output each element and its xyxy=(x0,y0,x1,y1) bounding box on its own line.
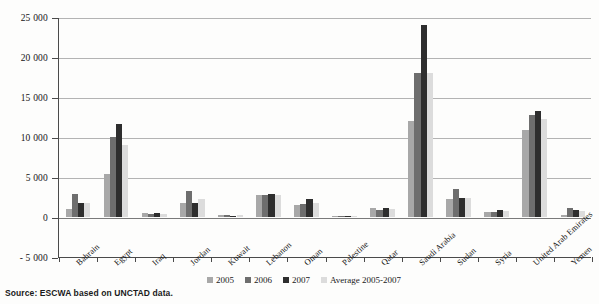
bar-group xyxy=(484,18,509,257)
bar xyxy=(313,203,319,217)
bar xyxy=(465,198,471,217)
x-axis-tick-mark xyxy=(173,257,174,262)
x-axis-tick-mark xyxy=(326,257,327,262)
x-axis-tick-mark xyxy=(592,257,593,262)
source-note: Source: ESCWA based on UNCTAD data. xyxy=(5,288,173,298)
legend-label: 2007 xyxy=(292,275,310,285)
x-axis-tick-mark xyxy=(135,257,136,262)
x-axis-tick-mark xyxy=(554,257,555,262)
x-axis-tick-mark xyxy=(97,257,98,262)
bar xyxy=(541,119,547,217)
chart-legend: 200520062007Average 2005-2007 xyxy=(207,275,401,285)
x-axis-tick-mark xyxy=(440,257,441,262)
bar-group xyxy=(66,18,91,257)
x-axis-tick-mark xyxy=(402,257,403,262)
plot-area xyxy=(58,18,591,258)
legend-item: 2005 xyxy=(207,275,234,285)
bar-group xyxy=(408,18,433,257)
x-axis-tick-mark xyxy=(211,257,212,262)
bar xyxy=(122,145,128,217)
bar-group xyxy=(218,18,243,257)
x-axis-tick-mark xyxy=(478,257,479,262)
bar-group xyxy=(522,18,547,257)
x-axis-tick-mark xyxy=(364,257,365,262)
bar-group xyxy=(561,18,586,257)
bar-group xyxy=(180,18,205,257)
y-axis: 25 00020 00015 00010 0005 0000- 5 000 xyxy=(0,0,58,304)
bar-group xyxy=(294,18,319,257)
bar xyxy=(84,203,90,217)
legend-label: 2005 xyxy=(216,275,234,285)
bar-group xyxy=(446,18,471,257)
legend-label: 2006 xyxy=(254,275,272,285)
legend-item: 2007 xyxy=(283,275,310,285)
bar-group xyxy=(142,18,167,257)
bar-group xyxy=(332,18,357,257)
legend-label: Average 2005-2007 xyxy=(330,275,401,285)
legend-swatch xyxy=(283,277,289,283)
bar-group xyxy=(104,18,129,257)
x-axis-tick-mark xyxy=(516,257,517,262)
bars-layer xyxy=(59,18,591,257)
y-axis-tick-label: 0 xyxy=(43,213,48,223)
bar xyxy=(275,195,281,217)
legend-swatch xyxy=(321,277,327,283)
bar-group xyxy=(370,18,395,257)
legend-item: Average 2005-2007 xyxy=(321,275,401,285)
y-axis-tick-mark xyxy=(52,258,58,259)
y-axis-tick-label: 10 000 xyxy=(21,133,48,143)
y-axis-tick-label: - 5 000 xyxy=(20,253,48,263)
x-axis-tick-mark xyxy=(287,257,288,262)
legend-swatch xyxy=(207,277,213,283)
y-axis-tick-label: 15 000 xyxy=(21,93,48,103)
x-axis-tick-mark xyxy=(249,257,250,262)
bar xyxy=(237,215,243,217)
y-axis-tick-label: 20 000 xyxy=(21,53,48,63)
bar xyxy=(503,211,509,217)
bar xyxy=(198,199,204,217)
x-axis-tick-mark xyxy=(59,257,60,262)
chart-figure: 25 00020 00015 00010 0005 0000- 5 000 Ba… xyxy=(0,0,599,304)
bar xyxy=(579,211,585,217)
bar xyxy=(427,73,433,217)
legend-swatch xyxy=(245,277,251,283)
bar-group xyxy=(256,18,281,257)
bar xyxy=(389,209,395,217)
bar xyxy=(351,216,357,217)
bar xyxy=(160,214,166,217)
y-axis-tick-label: 5 000 xyxy=(26,173,48,183)
y-axis-tick-label: 25 000 xyxy=(21,13,48,23)
legend-item: 2006 xyxy=(245,275,272,285)
